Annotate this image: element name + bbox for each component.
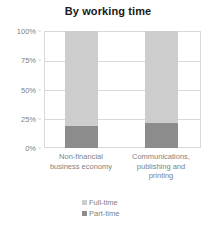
legend-item-full-time[interactable]: Full-time xyxy=(82,198,134,207)
x-axis-label-line: Non-financial xyxy=(40,152,122,162)
chart-container: By working time 100% 75% 50% 25% 0% Non-… xyxy=(0,0,216,243)
x-axis-label-line: printing xyxy=(120,171,202,181)
y-tick-label: 75% xyxy=(21,56,36,65)
legend: Full-time Part-time xyxy=(0,198,216,220)
x-axis-label-line: Communications, xyxy=(120,152,202,162)
y-tick-mark xyxy=(38,31,41,32)
chart-title: By working time xyxy=(0,5,216,17)
y-tick-mark xyxy=(38,118,41,119)
x-axis-label-0: Non-financial business economy xyxy=(40,152,122,171)
y-tick-label: 0% xyxy=(25,144,36,153)
y-tick-label: 25% xyxy=(21,114,36,123)
y-axis: 100% 75% 50% 25% 0% xyxy=(0,31,41,148)
bar-segment-full-time[interactable] xyxy=(65,31,98,126)
legend-swatch-icon xyxy=(82,211,87,216)
bar-segment-part-time[interactable] xyxy=(145,123,178,148)
x-axis-label-line: business economy xyxy=(40,162,122,172)
y-tick-label: 100% xyxy=(17,27,36,36)
y-tick-mark xyxy=(38,89,41,90)
bars-layer xyxy=(44,31,201,148)
x-axis-labels: Non-financial business economy Communica… xyxy=(44,152,201,198)
legend-item-part-time[interactable]: Part-time xyxy=(82,209,134,218)
x-axis-label-line: publishing and xyxy=(120,162,202,172)
y-tick-mark xyxy=(38,60,41,61)
legend-label: Part-time xyxy=(89,209,119,218)
legend-label: Full-time xyxy=(89,198,118,207)
x-axis-label-1: Communications, publishing and printing xyxy=(120,152,202,181)
bar-group-non-financial-business-economy[interactable] xyxy=(65,31,98,148)
bar-segment-part-time[interactable] xyxy=(65,126,98,148)
bar-segment-full-time[interactable] xyxy=(145,31,178,123)
bar-group-communications-publishing-and-printing[interactable] xyxy=(145,31,178,148)
legend-swatch-icon xyxy=(82,200,87,205)
y-tick-label: 50% xyxy=(21,85,36,94)
y-tick-mark xyxy=(38,148,41,149)
